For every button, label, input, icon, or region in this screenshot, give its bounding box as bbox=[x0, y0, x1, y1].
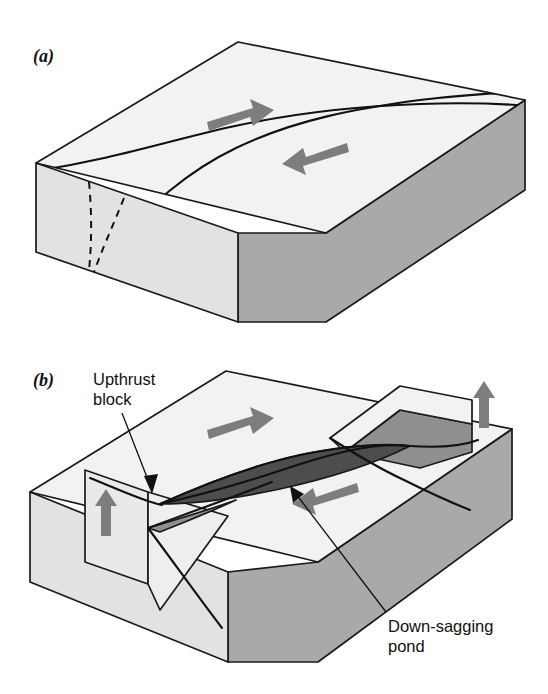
panel-b-label: (b) bbox=[33, 370, 54, 391]
geology-block-diagram: (a) bbox=[0, 0, 548, 694]
panel-a-label: (a) bbox=[33, 46, 54, 67]
down-sagging-pond-label-line1: Down-sagging bbox=[388, 617, 493, 635]
figure-root: (a) bbox=[0, 0, 548, 694]
panel-a: (a) bbox=[30, 42, 540, 322]
panel-b: (b) bbox=[30, 370, 512, 662]
upthrust-block-label-line1: Upthrust bbox=[93, 370, 156, 388]
down-sagging-pond-label-line2: pond bbox=[388, 637, 425, 655]
block-a bbox=[36, 42, 525, 322]
upthrust-block-label-line2: block bbox=[93, 390, 132, 408]
